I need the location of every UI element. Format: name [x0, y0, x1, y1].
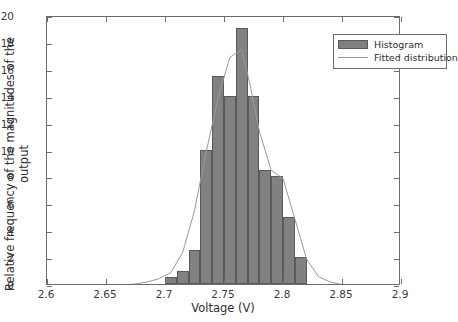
fitted-line-swatch-icon	[338, 53, 368, 62]
x-axis-tick	[342, 279, 343, 284]
x-axis-tick-top	[401, 17, 402, 22]
x-axis-tick-top	[106, 17, 107, 22]
y-axis-tick	[47, 232, 52, 233]
x-axis-tick-top	[342, 17, 343, 22]
y-axis-tick	[47, 44, 52, 45]
x-axis-tick	[106, 279, 107, 284]
y-axis-tick-right	[394, 17, 399, 18]
y-axis-tick	[47, 71, 52, 72]
y-axis-tick-right	[394, 98, 399, 99]
y-axis-tick-label: 20	[1, 10, 14, 22]
y-axis-tick-right	[394, 286, 399, 287]
x-axis-tick-top	[283, 17, 284, 22]
legend-label-fitted-distribution: Fitted distribution	[374, 52, 458, 63]
chart-legend: Histogram Fitted distribution	[333, 34, 447, 69]
legend-entry-fitted-distribution: Fitted distribution	[338, 51, 442, 64]
y-axis-tick	[47, 152, 52, 153]
y-axis-tick-right	[394, 125, 399, 126]
histogram-swatch-icon	[338, 40, 368, 49]
y-axis-tick-right	[394, 259, 399, 260]
x-axis-tick	[224, 279, 225, 284]
x-axis-tick-label: 2.7	[156, 288, 173, 300]
y-axis-tick	[47, 205, 52, 206]
x-axis-tick	[283, 279, 284, 284]
x-axis-tick-label: 2.9	[392, 288, 409, 300]
y-axis-tick	[47, 17, 52, 18]
y-axis-tick-right	[394, 178, 399, 179]
y-axis-title: Relative frequency of the magnitudes of …	[3, 26, 31, 302]
plot-area: Histogram Fitted distribution	[46, 16, 400, 285]
x-axis-tick	[401, 279, 402, 284]
y-axis-tick-right	[394, 71, 399, 72]
x-axis-tick-top	[165, 17, 166, 22]
x-axis-tick-top	[224, 17, 225, 22]
x-axis-tick-label: 2.65	[93, 288, 116, 300]
y-axis-tick	[47, 286, 52, 287]
y-axis-tick	[47, 259, 52, 260]
x-axis-tick-label: 2.8	[274, 288, 291, 300]
y-axis-tick	[47, 178, 52, 179]
y-axis-tick-right	[394, 232, 399, 233]
fitted-curve-path	[47, 49, 399, 284]
x-axis-tick	[165, 279, 166, 284]
y-axis-tick-right	[394, 152, 399, 153]
legend-label-histogram: Histogram	[374, 39, 423, 50]
y-axis-tick	[47, 125, 52, 126]
y-axis-tick-right	[394, 205, 399, 206]
x-axis-tick-label: 2.75	[211, 288, 234, 300]
x-axis-title: Voltage (V)	[46, 301, 400, 315]
legend-entry-histogram: Histogram	[338, 38, 442, 51]
x-axis-tick-label: 2.6	[38, 288, 55, 300]
x-axis-tick-label: 2.85	[329, 288, 352, 300]
x-axis-tick	[47, 279, 48, 284]
y-axis-tick	[47, 98, 52, 99]
